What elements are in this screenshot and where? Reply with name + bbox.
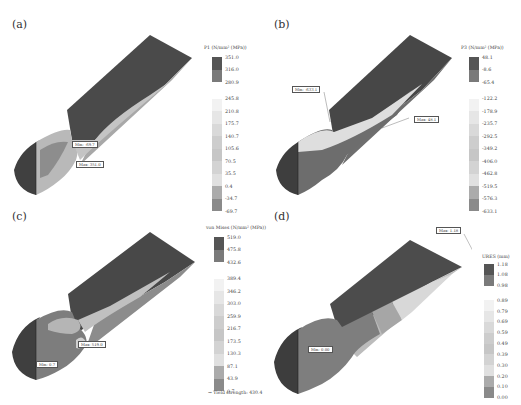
colorbar-segment [484,344,494,355]
colorbar-tick-label: 140.7 [225,134,239,139]
colorbar: 1.181.080.980.890.790.690.590.490.390.30… [484,264,521,394]
colorbar-segment [469,111,479,124]
colorbar-tick-label: 245.8 [225,96,239,101]
colorbar-tick-label: -406.0 [482,159,497,164]
colorbar: 519.0475.8432.6389.4346.2303.0259.9216.7… [214,237,254,387]
colorbar-tick-label: 1.18 [497,262,508,267]
max-tag: Max: 48.1 [414,116,439,123]
colorbar-tick-label: 210.8 [225,109,239,114]
colorbar-segment [484,264,494,275]
colorbar-segment [214,366,224,379]
fea-model-von-mises [0,202,200,402]
colorbar-tick-label: 43.9 [227,376,238,381]
legend-title: P1 (N/mm² (MPa)) [204,45,247,50]
colorbar-segment [214,341,224,354]
colorbar-tick-label: 303.0 [227,301,241,306]
colorbar-segment [469,161,479,174]
colorbar-tick-label: -235.7 [482,121,497,126]
min-tag: Min: -69.7 [72,141,98,148]
colorbar-segment [484,333,494,344]
colorbar-tick-label: 0.30 [497,363,508,368]
colorbar-tick-label: 105.6 [225,146,239,151]
colorbar-segment [212,70,222,83]
colorbar-segment [484,322,494,333]
colorbar-tick-label: 1.08 [497,272,508,277]
colorbar-tick-label: 175.7 [225,121,239,126]
colorbar-tick-label: -34.7 [225,196,237,201]
colorbar-segment [484,365,494,376]
colorbar-segment [469,174,479,187]
colorbar-tick-label: 0.59 [497,330,508,335]
colorbar-tick-label: 519.0 [227,235,241,240]
colorbar-tick-label: 0.10 [497,384,508,389]
colorbar-tick-label: 0.4 [225,184,233,189]
colorbar-tick-label: 173.5 [227,339,241,344]
colorbar-tick-label: -122.2 [482,96,497,101]
colorbar-segment [212,161,222,174]
colorbar-segment [484,275,494,286]
colorbar-tick-label: 48.1 [482,55,493,60]
colorbar-segment [469,99,479,112]
colorbar: 351.0316.0280.9245.8210.8175.7140.7105.6… [212,57,252,207]
colorbar-tick-label: 216.7 [227,326,241,331]
colorbar-segment [214,291,224,304]
colorbar-tick-label: -8.6 [482,67,491,72]
colorbar-tick-label: -178.9 [482,109,497,114]
colorbar-segment [212,57,222,70]
min-tag: Min: 0.7 [36,361,58,368]
colorbar-tick-label: 346.2 [227,289,241,294]
colorbar-tick-label: 0.49 [497,341,508,346]
colorbar-segment [212,136,222,149]
colorbar-segment [212,186,222,199]
colorbar-tick-label: 87.1 [227,364,238,369]
colorbar-segment [212,149,222,162]
max-tag: Max: 351.0 [76,161,104,168]
min-tag: Min: -633.1 [292,86,320,93]
colorbar-tick-label: 259.9 [227,314,241,319]
colorbar-segment [469,124,479,137]
colorbar-tick-label: -65.4 [482,80,494,85]
colorbar-tick-label: 0.98 [497,283,508,288]
colorbar-segment [214,316,224,329]
legend-title: P3 (N/mm² (MPa)) [461,45,504,50]
colorbar-segment [469,186,479,199]
max-tag: Max: 1.18 [436,227,461,234]
colorbar-tick-label: -349.2 [482,146,497,151]
legend-title: von Mises (N/mm² (MPa)) [206,225,266,230]
fea-model-p1 [0,0,200,200]
colorbar-segment [469,149,479,162]
colorbar-tick-label: -292.5 [482,134,497,139]
colorbar-tick-label: 0.89 [497,298,508,303]
colorbar-tick-label: -576.3 [482,196,497,201]
colorbar-tick-label: 316.0 [225,67,239,72]
colorbar-segment [484,387,494,398]
colorbar-tick-label: 0.20 [497,374,508,379]
colorbar-tick-label: -462.8 [482,171,497,176]
colorbar-segment [484,376,494,387]
colorbar-segment [469,136,479,149]
panel-d: (d) Max: 1.18 Min: 0.00 URES (mm) 1.181.… [262,202,521,402]
fea-model-p3 [262,0,462,200]
colorbar-segment [214,279,224,292]
colorbar-segment [484,311,494,322]
colorbar-segment [214,304,224,317]
legend-title: URES (mm) [482,254,510,259]
colorbar-segment [214,237,224,250]
colorbar-segment [212,111,222,124]
colorbar-tick-label: 475.8 [227,247,241,252]
colorbar-tick-label: 280.9 [225,80,239,85]
colorbar-tick-label: -519.5 [482,184,497,189]
panel-a: (a) Min: -69.7 Max: 351.0 P1 (N/mm² (MPa… [0,0,260,200]
colorbar-tick-label: 70.5 [225,159,236,164]
colorbar-segment [484,354,494,365]
yield-strength-marker: → Yield strength: 430.4 [208,390,262,395]
colorbar-tick-label: 432.6 [227,260,241,265]
colorbar-segment [214,250,224,263]
colorbar-tick-label: 389.4 [227,276,241,281]
max-tag: Max: 519.0 [78,341,106,348]
colorbar-segment [212,124,222,137]
colorbar-segment [214,329,224,342]
colorbar-tick-label: 0.79 [497,309,508,314]
colorbar-tick-label: 0.39 [497,352,508,357]
colorbar-tick-label: 130.3 [227,351,241,356]
